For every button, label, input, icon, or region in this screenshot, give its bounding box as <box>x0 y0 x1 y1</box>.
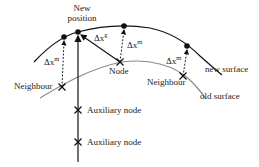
node-mesh-displacement-arrow <box>120 30 124 62</box>
delta-x-text: Δx <box>94 33 104 43</box>
new-position-label: New position <box>62 4 102 23</box>
auxiliary-node-1-label: Auxiliary node <box>87 106 141 115</box>
new-surface-label: new surface <box>205 65 248 74</box>
auxiliary-node-2-label: Auxiliary node <box>87 138 141 147</box>
new-position-node-dot <box>121 23 127 29</box>
delta-superscript: m <box>176 54 181 61</box>
delta-superscript: m <box>54 55 59 62</box>
right-mesh-displacement-arrow <box>183 50 187 76</box>
delta-x-text: Δx <box>127 40 137 50</box>
old-surface-label: old surface <box>200 92 240 101</box>
node-mesh-displacement-label: Δxm <box>127 41 142 50</box>
new-position-left-dot <box>61 34 67 40</box>
node-label: Node <box>109 67 129 76</box>
new-position-label-line2: position <box>62 14 102 23</box>
new-position-label-line1: New <box>62 4 102 13</box>
mesh-update-diagram: New position Δxm Δxg Δxm Δxm Neighbour N… <box>0 0 259 167</box>
delta-superscript: m <box>137 38 142 45</box>
neighbour-left-label: Neighbour <box>14 82 53 91</box>
left-mesh-displacement-arrow <box>62 41 64 87</box>
delta-superscript: g <box>104 31 107 38</box>
new-position-right-dot <box>184 43 190 49</box>
left-mesh-displacement-label: Δxm <box>44 58 59 67</box>
delta-x-text: Δx <box>166 56 176 66</box>
right-mesh-displacement-label: Δxm <box>166 57 181 66</box>
global-displacement-label: Δxg <box>94 34 108 43</box>
new-position-dot <box>75 29 81 35</box>
neighbour-right-label: Neighbour <box>147 78 186 87</box>
delta-x-text: Δx <box>44 57 54 67</box>
